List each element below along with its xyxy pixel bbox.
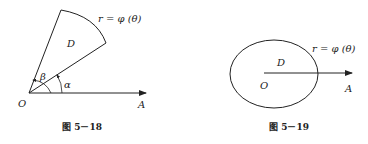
caption: 图 5－19 <box>269 122 309 132</box>
figure-5-18: r = φ (θ) D β α O A 图 5－18 <box>18 10 146 132</box>
curve-label: r = φ (θ) <box>312 43 356 54</box>
origin-label: O <box>260 80 268 91</box>
origin-label: O <box>18 98 26 109</box>
curve-label: r = φ (θ) <box>98 13 142 24</box>
axis-label: A <box>344 83 352 94</box>
caption: 图 5－18 <box>62 122 102 132</box>
alpha-label: α <box>64 79 71 90</box>
region-label: D <box>66 38 75 49</box>
alpha-arc <box>57 75 62 93</box>
figure-5-19: r = φ (θ) D O A 图 5－19 <box>230 40 356 132</box>
axis-label: A <box>137 99 145 110</box>
region-label: D <box>276 57 285 68</box>
beta-label: β <box>39 71 46 82</box>
curve-ellipse <box>230 40 318 108</box>
figure-canvas: r = φ (θ) D β α O A 图 5－18 r = φ (θ) D O… <box>0 0 368 144</box>
